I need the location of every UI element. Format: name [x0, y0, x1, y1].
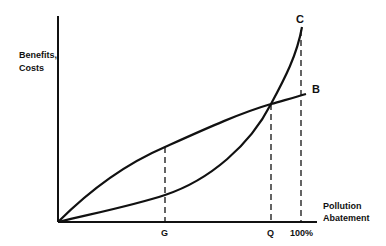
x-tick-label-g: G: [161, 228, 168, 238]
x-tick-label-q: Q: [267, 228, 274, 238]
x-axis-label-line1: Pollution: [323, 201, 362, 211]
benefits-curve: [58, 94, 306, 222]
x-axis-label-line2: Abatement: [323, 213, 370, 223]
y-axis-label-line1: Benefits,: [19, 50, 57, 60]
curve-label-b: B: [312, 83, 320, 95]
costs-curve: [58, 27, 302, 222]
benefit-cost-diagram: C B Benefits, Costs Pollution Abatement …: [0, 0, 386, 246]
curve-label-c: C: [296, 13, 304, 25]
x-tick-label-100-percent: 100%: [290, 228, 313, 238]
y-axis-label-line2: Costs: [19, 63, 44, 73]
